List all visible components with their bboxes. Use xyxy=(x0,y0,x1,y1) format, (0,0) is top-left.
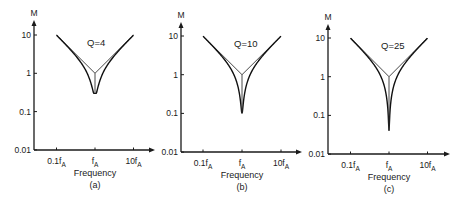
figure: M 1010.10.01 0.1fAfA10fA Q=4 Frequency (… xyxy=(0,0,462,206)
y-tick-labels: 1010.10.01 xyxy=(308,33,325,159)
x-tick-labels: 0.1fAfA10fA xyxy=(341,160,436,172)
tick-label: 0.1fA xyxy=(47,156,66,168)
x-tick-labels: 0.1fAfA10fA xyxy=(194,158,290,170)
tick-label: 0.01 xyxy=(14,145,31,155)
x-axis-arrow-icon xyxy=(444,152,450,157)
panel-caption: (b) xyxy=(237,182,248,192)
ticks xyxy=(181,36,281,152)
tick-label: 10 xyxy=(169,31,179,41)
y-axis-label: M xyxy=(324,12,331,22)
tick-label: 0.1fA xyxy=(341,160,360,172)
panel-caption: (c) xyxy=(384,184,395,194)
tick-label: fA xyxy=(239,158,246,170)
y-axis-label: M xyxy=(30,8,37,18)
x-axis-label: Frequency xyxy=(74,168,117,178)
tick-label: 10 xyxy=(22,30,32,40)
panel-b: M 1010.10.01 0.1fAfA10fA Q=10 Frequency … xyxy=(161,10,302,192)
y-tick-labels: 1010.10.01 xyxy=(14,30,31,155)
tick-label: 10fA xyxy=(419,160,436,172)
tick-label: 0.01 xyxy=(308,149,325,159)
ticks xyxy=(34,35,134,150)
y-axis-arrow-icon xyxy=(32,20,37,26)
x-axis-label: Frequency xyxy=(368,172,411,182)
tick-label: 0.1fA xyxy=(194,158,213,170)
y-axis-arrow-icon xyxy=(179,22,184,28)
tick-label: 0.1 xyxy=(313,110,325,120)
tick-label: fA xyxy=(386,160,393,172)
tick-label: 10fA xyxy=(273,158,290,170)
tick-label: 0.01 xyxy=(161,147,178,157)
tick-label: 10fA xyxy=(125,156,142,168)
q-annotation: Q=10 xyxy=(234,38,258,49)
ticks xyxy=(328,38,428,154)
panel-a: M 1010.10.01 0.1fAfA10fA Q=4 Frequency (… xyxy=(14,8,155,190)
tick-label: 1 xyxy=(26,68,31,78)
x-axis-arrow-icon xyxy=(296,150,302,155)
x-tick-labels: 0.1fAfA10fA xyxy=(47,156,142,168)
y-tick-labels: 1010.10.01 xyxy=(161,31,178,157)
q-annotation: Q=4 xyxy=(87,37,105,48)
tick-label: 0.1 xyxy=(166,108,178,118)
tick-label: 1 xyxy=(320,72,325,82)
y-axis-arrow-icon xyxy=(326,24,331,30)
tick-label: 0.1 xyxy=(19,107,31,117)
tick-label: 1 xyxy=(173,70,178,80)
y-axis-label: M xyxy=(177,10,184,20)
q-annotation: Q=25 xyxy=(381,40,405,51)
panel-c: M 1010.10.01 0.1fAfA10fA Q=25 Frequency … xyxy=(308,12,450,194)
tick-label: 10 xyxy=(316,33,326,43)
tick-label: fA xyxy=(92,156,99,168)
x-axis-label: Frequency xyxy=(221,170,264,180)
x-axis-arrow-icon xyxy=(149,148,155,153)
panel-caption: (a) xyxy=(90,180,101,190)
